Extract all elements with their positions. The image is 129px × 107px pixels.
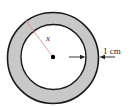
- thickness-label: 1 cm: [103, 46, 121, 56]
- center-dot: [51, 55, 55, 59]
- ring-diagram: x 1 cm: [0, 0, 129, 107]
- radius-label: x: [45, 33, 50, 43]
